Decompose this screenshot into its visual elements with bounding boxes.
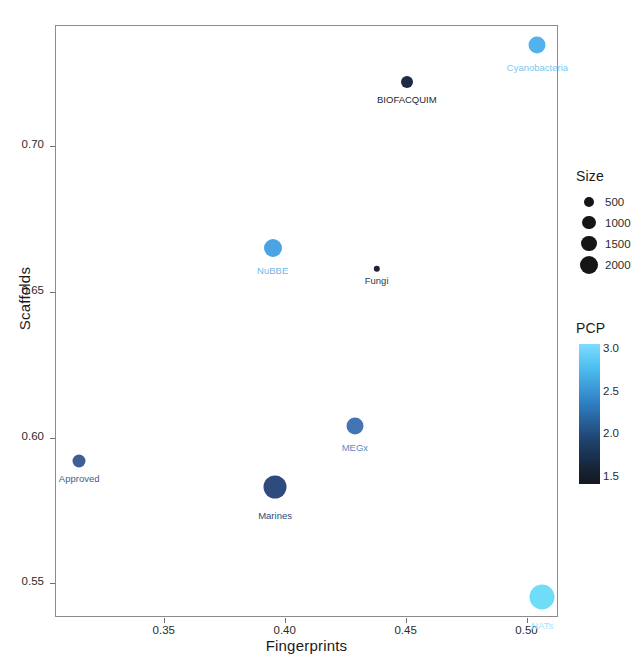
x-tick-mark	[285, 618, 286, 623]
data-point-label: Cyanobacteria	[507, 62, 568, 73]
data-point[interactable]	[73, 454, 86, 467]
x-tick-mark	[527, 618, 528, 623]
y-tick-label: 0.70	[0, 138, 44, 150]
size-legend-item[interactable]: 2000	[576, 254, 635, 275]
size-legend-dot	[582, 216, 595, 229]
x-tick-label: 0.45	[376, 624, 436, 636]
size-legend-swatch	[576, 197, 602, 207]
x-tick-label: 0.35	[134, 624, 194, 636]
size-legend-dot	[584, 197, 594, 207]
data-point[interactable]	[264, 239, 282, 257]
pcp-legend-title: PCP	[576, 320, 635, 336]
pcp-tick-label: 1.5	[603, 470, 619, 482]
size-legend-item[interactable]: 500	[576, 191, 635, 212]
x-tick-mark	[406, 618, 407, 623]
size-legend-swatch	[576, 216, 602, 229]
data-point-label: Marines	[258, 510, 292, 521]
x-axis-title: Fingerprints	[0, 637, 613, 654]
y-tick-label: 0.60	[0, 430, 44, 442]
y-tick-label: 0.55	[0, 575, 44, 587]
data-point-label: NuBBE	[257, 265, 288, 276]
data-point-label: Fungi	[365, 275, 389, 286]
data-point[interactable]	[529, 37, 546, 54]
x-tick-mark	[164, 618, 165, 623]
plot-panel	[55, 25, 558, 617]
pcp-tick-label: 3.0	[603, 342, 619, 354]
size-legend-title: Size	[576, 168, 635, 184]
data-point-label: MEGx	[342, 442, 368, 453]
pcp-legend: PCP 3.02.52.01.5	[576, 320, 635, 343]
size-legend-label: 1500	[605, 238, 631, 250]
y-axis-title: Scaffolds	[16, 239, 33, 359]
y-tick-mark	[50, 146, 55, 147]
data-point[interactable]	[401, 76, 413, 88]
size-legend-label: 500	[605, 196, 624, 208]
size-legend-label: 2000	[605, 259, 631, 271]
data-point-label: Approved	[59, 473, 100, 484]
data-point[interactable]	[530, 584, 555, 609]
data-point-label: NATs	[531, 620, 553, 631]
y-tick-mark	[50, 292, 55, 293]
pcp-colorbar	[579, 344, 600, 484]
size-legend-swatch	[576, 256, 602, 274]
size-legend-swatch	[576, 236, 602, 252]
pcp-tick-label: 2.5	[603, 385, 619, 397]
pcp-tick-label: 2.0	[603, 427, 619, 439]
size-legend-dot	[580, 256, 598, 274]
size-legend: Size 500100015002000	[576, 168, 635, 275]
size-legend-item[interactable]: 1000	[576, 212, 635, 233]
size-legend-dot	[581, 236, 597, 252]
size-legend-label: 1000	[605, 217, 631, 229]
data-point[interactable]	[264, 476, 287, 499]
size-legend-rows: 500100015002000	[576, 191, 635, 275]
data-point[interactable]	[346, 417, 363, 434]
x-tick-label: 0.40	[255, 624, 315, 636]
y-tick-mark	[50, 438, 55, 439]
data-point-label: BIOFACQUIM	[377, 94, 437, 105]
size-legend-item[interactable]: 1500	[576, 233, 635, 254]
y-tick-mark	[50, 583, 55, 584]
scatter-plot-figure: 0.350.400.450.500.550.600.650.70Approved…	[0, 0, 635, 660]
